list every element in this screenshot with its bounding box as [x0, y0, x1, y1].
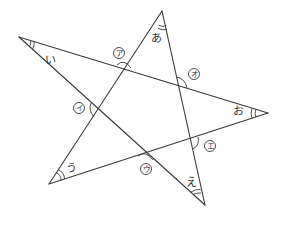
circled-label-E: エ	[205, 141, 216, 152]
svg-text:ア: ア	[116, 49, 123, 58]
svg-text:ウ: ウ	[143, 165, 150, 174]
line-left-to-right	[19, 37, 268, 113]
intersection-angle-arc-E	[193, 137, 198, 149]
pentagram-diagram: あ い う え お ア イ ウ エ オ	[0, 0, 282, 225]
circled-label-A: ア	[114, 48, 125, 59]
vertex-label-e: え	[186, 176, 197, 189]
vertex-label-a: あ	[151, 32, 162, 45]
vertex-label-o: お	[233, 105, 244, 118]
intersection-angle-arc-I	[90, 103, 94, 117]
line-top-to-bottom-right	[162, 11, 205, 205]
intersection-angle-arc-U	[138, 154, 153, 160]
circled-label-U: ウ	[141, 164, 152, 175]
svg-text:エ: エ	[207, 142, 214, 151]
svg-text:イ: イ	[76, 104, 83, 113]
circled-label-I: イ	[74, 103, 85, 114]
diagram-canvas: あ い う え お ア イ ウ エ オ	[0, 0, 282, 225]
vertex-label-i: い	[45, 54, 56, 67]
svg-text:オ: オ	[191, 70, 198, 79]
vertex-label-u: う	[66, 162, 77, 175]
line-bottom-left-to-right	[49, 113, 268, 184]
line-top-to-bottom-left	[49, 11, 162, 184]
circled-label-O: オ	[189, 69, 200, 80]
